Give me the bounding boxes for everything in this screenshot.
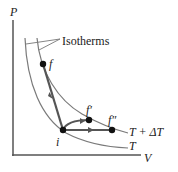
pv-diagram xyxy=(0,0,178,172)
path-i-f xyxy=(43,64,63,130)
isotherm-t-label: T xyxy=(129,140,136,152)
path-i-f1 xyxy=(63,120,89,130)
point-f-label: f xyxy=(49,58,52,70)
point-f-double-prime xyxy=(109,127,115,133)
arrow-i-f2 xyxy=(88,127,94,133)
arrow-i-f1 xyxy=(80,118,85,124)
isotherm-t-plus-dt-label: T + ΔT xyxy=(129,126,163,138)
p-axis-label: P xyxy=(10,6,17,18)
point-f-prime xyxy=(86,117,92,123)
point-f-prime-label: f′ xyxy=(86,104,92,116)
v-axis-label: V xyxy=(144,152,151,164)
point-f-double-prime-label: f″ xyxy=(108,114,116,126)
point-f xyxy=(40,61,46,67)
point-i-label: i xyxy=(56,136,59,148)
isotherms-callout: Isotherms xyxy=(62,35,109,47)
point-i xyxy=(60,127,66,133)
